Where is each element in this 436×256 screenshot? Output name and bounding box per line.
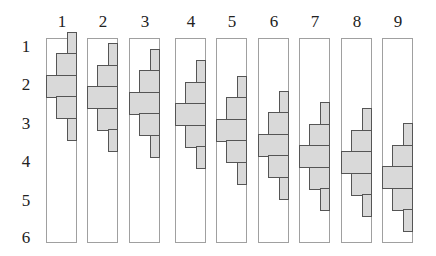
histogram-bar [56,53,77,76]
histogram-panel-5 [216,38,247,243]
histogram-bar [97,65,118,88]
histogram-bar [403,123,413,146]
histogram-panel-4 [175,38,206,243]
histogram-bar [351,173,372,196]
histogram-bar [382,166,413,189]
histogram-bar [362,194,372,217]
histogram-bar [108,129,118,152]
histogram-bar [237,76,247,99]
histogram-bar [67,32,77,55]
histogram-panel-9 [382,38,413,243]
histogram-bar [320,102,330,125]
histogram-bar [87,86,118,109]
histogram-bar [268,155,289,178]
histogram-bar [196,146,206,169]
histogram-bar [299,145,330,168]
row-label-4: 4 [16,153,36,170]
histogram-bar [226,140,247,163]
histogram-bar [362,108,372,131]
histogram-panel-6 [258,38,289,243]
histogram-bar [258,134,289,157]
column-label-9: 9 [382,13,414,30]
histogram-bar [46,75,77,98]
column-label-3: 3 [129,13,161,30]
histogram-grid-figure: 1 2 3 4 5 6 123456789 [0,0,436,256]
column-label-7: 7 [299,13,331,30]
histogram-panel-1 [46,38,77,243]
histogram-bar [341,151,372,174]
column-label-6: 6 [258,13,290,30]
histogram-bar [237,162,247,185]
column-label-2: 2 [87,13,119,30]
histogram-bar [175,103,206,126]
histogram-bar [403,209,413,232]
histogram-bar [129,92,160,115]
histogram-bar [108,43,118,66]
histogram-bar [279,177,289,200]
histogram-bar [139,113,160,136]
histogram-panel-7 [299,38,330,243]
histogram-bar [392,145,413,168]
histogram-bar [196,60,206,83]
row-label-6: 6 [16,229,36,246]
histogram-bar [392,188,413,211]
row-label-3: 3 [16,115,36,132]
histogram-bar [351,130,372,153]
histogram-bar [150,49,160,72]
histogram-bar [139,70,160,93]
histogram-bar [320,188,330,211]
histogram-bar [150,135,160,158]
histogram-bar [97,108,118,131]
histogram-panel-2 [87,38,118,243]
histogram-bar [268,112,289,135]
column-label-4: 4 [175,13,207,30]
histogram-bar [185,125,206,148]
row-label-5: 5 [16,192,36,209]
column-label-1: 1 [46,13,78,30]
histogram-bar [185,82,206,105]
histogram-bar [226,97,247,120]
histogram-bar [67,118,77,141]
row-label-2: 2 [16,76,36,93]
histogram-bar [279,91,289,114]
histogram-panel-3 [129,38,160,243]
histogram-bar [216,119,247,142]
histogram-panel-8 [341,38,372,243]
histogram-bar [309,167,330,190]
column-label-8: 8 [341,13,373,30]
row-label-1: 1 [16,38,36,55]
column-label-5: 5 [216,13,248,30]
histogram-bar [309,124,330,147]
histogram-bar [56,96,77,119]
